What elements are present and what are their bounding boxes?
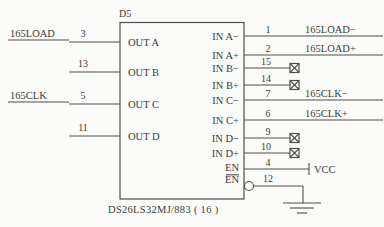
pin2-number: 2 — [266, 43, 271, 54]
right-pin-row-in-c-plus: 6 IN C+ 165CLK+ — [212, 108, 383, 126]
pin15-number: 15 — [261, 56, 271, 67]
pin9-number: 9 — [266, 126, 271, 137]
no-connect-icon — [290, 134, 299, 143]
active-low-bubble-icon — [245, 182, 254, 191]
ic-pin-name-in-c-plus: IN C+ — [212, 115, 239, 126]
ic-pin-name-in-b-plus: IN B+ — [212, 80, 239, 91]
pin14-number: 14 — [261, 73, 271, 84]
right-pin-row-in-a-minus: 1 IN A− 165LOAD− — [212, 24, 383, 42]
ground-icon — [283, 203, 321, 213]
ic-pin-name-out-d: OUT D — [128, 131, 160, 142]
ic-pin-name-in-a-plus: IN A+ — [212, 50, 239, 61]
pin3-number: 3 — [81, 28, 86, 39]
left-pin-row-out-c: 165CLK 5 OUT C — [8, 90, 159, 110]
left-pin-row-out-d: 11 OUT D — [69, 122, 160, 142]
pin1-number: 1 — [266, 24, 271, 35]
right-pin-row-in-a-plus: 2 IN A+ 165LOAD+ — [212, 43, 383, 61]
right-pin-row-en: 4 EN VCC — [225, 157, 336, 175]
pin7-number: 7 — [266, 88, 271, 99]
no-connect-icon — [290, 81, 299, 90]
pin12-number: 12 — [263, 173, 273, 184]
vcc-label: VCC — [314, 164, 336, 175]
ic-pin-name-in-b-minus: IN B− — [212, 63, 239, 74]
net-label: 165LOAD− — [305, 24, 356, 35]
ic-pin-name-in-d-plus: IN D+ — [212, 148, 239, 159]
pin5-number: 5 — [81, 90, 86, 101]
left-pin-row-out-b: 13 OUT B — [69, 58, 159, 78]
right-pin-row-in-b-plus: 14 IN B+ — [212, 73, 299, 91]
right-pin-row-en-bar: EN 12 — [225, 173, 321, 213]
pin11-number: 11 — [78, 122, 88, 133]
net-label: 165LOAD+ — [305, 43, 356, 54]
pin13-number: 13 — [78, 58, 88, 69]
no-connect-icon — [290, 64, 299, 73]
net-label: 165CLK− — [305, 88, 348, 99]
left-pin-row-out-a: 165LOAD 3 OUT A — [8, 28, 159, 48]
pin4-number: 4 — [266, 157, 271, 168]
right-pin-row-in-d-minus: 9 IN D− — [212, 126, 299, 144]
pin6-number: 6 — [266, 108, 271, 119]
ic-pin-name-out-c: OUT C — [128, 99, 159, 110]
ic-part-number: DS26LS32MJ/883 ( 16 ) — [108, 204, 219, 216]
net-label: 165CLK — [10, 90, 47, 101]
ic-pin-name-out-a: OUT A — [128, 37, 159, 48]
pin10-number: 10 — [261, 141, 271, 152]
ic-pin-name-in-c-minus: IN C− — [212, 95, 239, 106]
ic-pin-name-in-d-minus: IN D− — [212, 133, 239, 144]
ic-pin-name-in-a-minus: IN A− — [212, 31, 239, 42]
net-label: 165LOAD — [10, 28, 55, 39]
ic-pin-name-out-b: OUT B — [128, 67, 159, 78]
schematic: D5 DS26LS32MJ/883 ( 16 ) 165LOAD 3 OUT A… — [0, 0, 384, 227]
ic-pin-name-en: EN — [225, 162, 239, 173]
ic-pin-name-en-bar: EN — [225, 174, 239, 185]
no-connect-icon — [290, 149, 299, 158]
ic-designator: D5 — [119, 8, 131, 19]
net-label: 165CLK+ — [305, 108, 348, 119]
